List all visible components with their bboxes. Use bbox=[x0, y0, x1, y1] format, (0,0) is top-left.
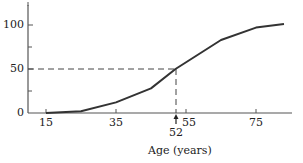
y-tick-label-50: 50 bbox=[2, 63, 24, 74]
x-tick-label-75: 75 bbox=[244, 117, 268, 128]
line-chart bbox=[0, 0, 303, 163]
x-tick-label-15: 15 bbox=[34, 117, 58, 128]
y-tick-label-0: 0 bbox=[2, 107, 24, 118]
x-axis-title: Age (years) bbox=[148, 145, 212, 156]
x-tick-label-35: 35 bbox=[104, 117, 128, 128]
y-tick-label-100: 100 bbox=[2, 19, 24, 30]
annotation-label-52: 52 bbox=[164, 127, 188, 138]
